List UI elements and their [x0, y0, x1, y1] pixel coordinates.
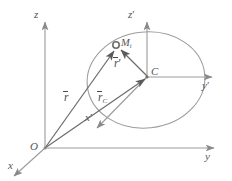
diagram-svg: [0, 0, 232, 181]
local-x-axis-label: x′: [85, 112, 92, 123]
particle-marker: [113, 42, 119, 48]
vector-rprime-overbar-group: r: [114, 58, 118, 70]
global-z-axis-label: z: [34, 9, 38, 20]
vector-rc-letter: r: [98, 91, 102, 103]
overbar: [97, 91, 102, 92]
origin-marker: [44, 147, 47, 150]
vector-rc-label: rC: [98, 92, 107, 105]
center-point-label: C: [151, 66, 158, 77]
rigid-body-ellipse: [82, 26, 209, 134]
overbar: [113, 57, 118, 58]
overbar: [63, 91, 68, 92]
vector-r-label: r: [64, 92, 68, 104]
vector-rc-overbar-group: r: [98, 92, 102, 104]
vector-rprime-arrow: [121, 50, 147, 76]
particle-subscript: i: [130, 42, 132, 49]
global-x-axis-label: x: [8, 160, 13, 171]
vector-rc-subscript: C: [102, 97, 107, 105]
center-marker: [145, 75, 148, 78]
figure-canvas: z y x O z′ y′ x′ C Mi r rC r′: [0, 0, 232, 181]
vector-r-overbar-group: r: [64, 92, 68, 104]
vector-rprime-label: r′: [114, 58, 121, 70]
local-y-axis-label: y′: [202, 80, 209, 91]
origin-label: O: [30, 141, 38, 152]
vector-rc-arrow: [45, 79, 145, 148]
local-y-prime: ′: [207, 79, 209, 91]
global-y-axis-label: y: [205, 151, 210, 162]
vector-rprime-letter: r: [114, 57, 118, 69]
global-x-axis: [14, 148, 45, 176]
particle-letter: M: [121, 37, 130, 48]
vector-rprime-prime: ′: [118, 57, 121, 69]
local-z-axis-label: z′: [128, 9, 135, 20]
particle-point-label: Mi: [121, 38, 132, 49]
vector-r-letter: r: [64, 91, 68, 103]
local-x-prime: ′: [90, 111, 92, 123]
local-z-prime: ′: [132, 8, 134, 20]
